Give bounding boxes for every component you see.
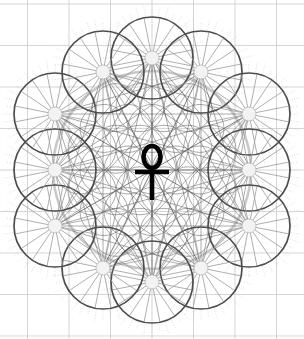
wheel-hub <box>194 65 208 79</box>
mandala-canvas: Flower of Life Ankh Mandala <box>0 0 304 339</box>
wheel-hub <box>48 107 62 121</box>
wheel-hub <box>242 107 256 121</box>
wheel-hub <box>48 163 62 177</box>
wheel-hub <box>145 51 159 65</box>
wheel-hub <box>96 261 110 275</box>
wheel-hub <box>96 65 110 79</box>
mandala-artboard: Flower of Life Ankh Mandala <box>0 0 304 339</box>
wheel-hub <box>242 163 256 177</box>
wheel-hub <box>242 219 256 233</box>
wheel-hub <box>194 261 208 275</box>
wheel-hub <box>48 219 62 233</box>
wheel-hub <box>145 275 159 289</box>
